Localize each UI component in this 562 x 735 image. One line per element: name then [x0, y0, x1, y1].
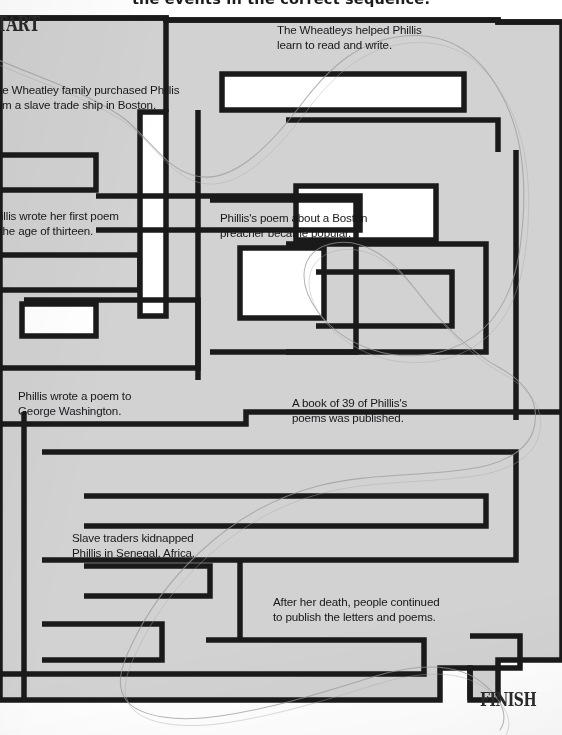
event-label-boston-preacher-poem: Phillis's poem about a Boston preacher b… — [220, 210, 367, 241]
start-label: START — [0, 12, 40, 36]
page-title: the events in the correct sequence. — [0, 0, 562, 7]
finish-label: FINISH — [480, 688, 536, 710]
event-label-kidnapped-senegal: Slave traders kidnapped Phillis in Seneg… — [72, 530, 195, 561]
event-label-wheatleys-taught: The Wheatleys helped Phillis learn to re… — [277, 22, 422, 53]
maze-wall — [22, 304, 96, 336]
maze-wall — [240, 248, 324, 318]
event-label-published-after-death: After her death, people continued to pub… — [273, 594, 440, 625]
worksheet-page: the events in the correct sequence. STAR… — [0, 0, 562, 735]
event-label-poem-to-washington: Phillis wrote a poem to George Washingto… — [18, 388, 131, 419]
maze-wall — [140, 112, 166, 316]
maze-wall — [222, 74, 464, 110]
event-label-first-poem-thirteen: Phillis wrote her first poem at the age … — [0, 208, 119, 239]
event-label-family-purchased: The Wheatley family purchased Phillis fr… — [0, 82, 179, 113]
event-label-book-of-39-poems: A book of 39 of Phillis's poems was publ… — [292, 395, 407, 426]
